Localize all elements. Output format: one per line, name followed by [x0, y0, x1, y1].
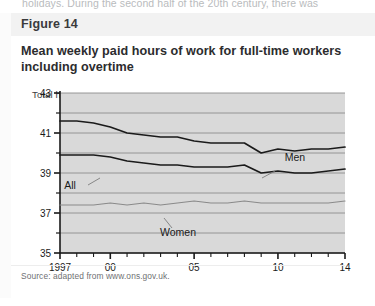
y-axis-tick-label: 43: [40, 88, 52, 99]
y-axis-tick-label: 35: [40, 248, 52, 259]
page-body-text-fragment: holidays. During the second half of the …: [22, 0, 372, 9]
y-axis-tick-label: 41: [40, 128, 52, 139]
y-axis-tick-label: 39: [40, 168, 52, 179]
source-divider: [11, 265, 345, 266]
y-axis-tick-label: 37: [40, 208, 52, 219]
x-axis-tick-label: 10: [272, 262, 284, 273]
figure-card: Figure 14 Mean weekly paid hours of work…: [0, 13, 375, 298]
annotation-label-all: All: [64, 179, 76, 191]
x-axis-tick-label: 14: [339, 262, 351, 273]
source-note: Source: adapted from www.ons.gov.uk.: [21, 271, 170, 281]
annotation-label-women: Women: [160, 226, 196, 238]
line-chart-svg: 3537394143199700051014MenAllWomen: [0, 13, 375, 298]
x-axis-tick-label: 05: [189, 262, 201, 273]
annotation-label-men: Men: [285, 151, 306, 163]
figure-screenshot: holidays. During the second half of the …: [0, 0, 375, 306]
chart-plot-area: 3537394143199700051014MenAllWomen: [0, 13, 375, 298]
